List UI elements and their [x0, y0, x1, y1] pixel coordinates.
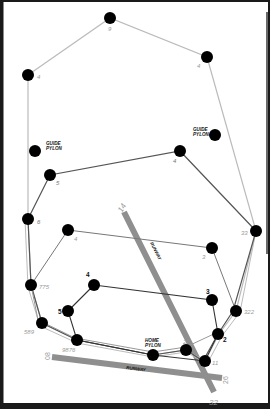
label-right-2: 2	[223, 336, 227, 343]
label-small-3: 3	[206, 288, 210, 295]
label-bottom-11: 11	[212, 360, 218, 366]
node-bottom-11	[199, 355, 211, 367]
home-pylon	[147, 349, 159, 361]
node-small-5	[62, 305, 74, 317]
runway-08-label: 08	[44, 352, 51, 360]
node-labels: 9 4 4 4 5 6 4 33 3 775 4 5 322 3 589 987…	[24, 26, 255, 366]
label-top: 9	[108, 26, 112, 32]
label-left-589: 589	[24, 329, 35, 335]
outer-frame	[1, 1, 269, 408]
node-upper-left	[22, 69, 34, 81]
label-mid-right: 4	[173, 158, 177, 164]
node-mid-2	[180, 344, 192, 356]
guide-pylon-right-line2: PYLON	[193, 132, 210, 137]
guide-pylon-left	[29, 145, 41, 157]
node-inner-4	[62, 224, 74, 236]
runway-32-label: 32	[209, 398, 218, 407]
node-left-6	[22, 213, 34, 225]
node-mid-right	[174, 145, 186, 157]
label-left-5: 5	[56, 180, 60, 186]
node-left-589	[36, 317, 48, 329]
label-inner-4: 4	[74, 236, 78, 242]
runway-26-label: 26	[222, 376, 229, 384]
guide-pylon-right	[209, 129, 221, 141]
label-right-322: 322	[244, 309, 255, 315]
node-right-3	[206, 242, 218, 254]
node-bottom-9876	[71, 334, 83, 346]
label-bottom-9876: 9876	[62, 347, 76, 353]
guide-pylon-left-line2: PYLON	[46, 146, 63, 151]
node-left-775	[25, 279, 37, 291]
label-mid-2: 2	[182, 339, 187, 345]
label-left-775: 775	[39, 284, 50, 290]
node-small-3	[206, 294, 218, 306]
node-left-5	[44, 169, 56, 181]
label-left-6: 6	[37, 219, 41, 225]
label-small-4: 4	[86, 271, 90, 278]
node-top	[104, 12, 116, 24]
home-pylon-line2: PYLON	[145, 343, 162, 348]
pylon-course-diagram: 14 32 RUNWAY 08 26 RUNWAY	[0, 0, 270, 409]
node-top-right	[201, 51, 213, 63]
label-right-3: 3	[202, 254, 206, 260]
node-right-322	[230, 305, 242, 317]
node-right-33	[250, 225, 262, 237]
label-top-right: 4	[197, 63, 201, 69]
label-small-5: 5	[58, 308, 62, 315]
label-upper-left: 4	[37, 74, 41, 80]
node-small-4	[88, 279, 100, 291]
label-right-33: 33	[241, 230, 248, 236]
runway-14-32-name: RUNWAY	[149, 241, 163, 262]
